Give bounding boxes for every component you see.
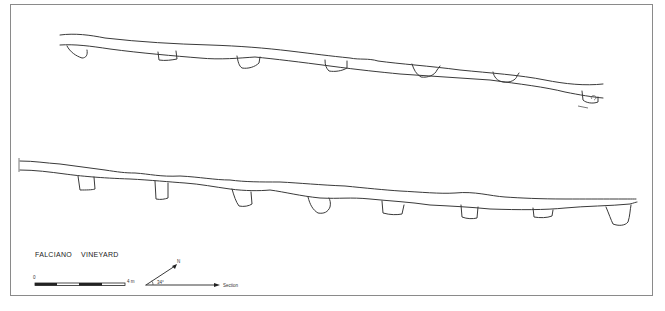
section-drawing [0, 0, 665, 311]
upper-section-profile [60, 34, 603, 108]
scale-end-label: 4 m [127, 279, 135, 284]
scale-bar [35, 283, 125, 286]
section-label: Section [223, 283, 238, 288]
scale-start-label: 0 [33, 275, 36, 280]
angle-label: 34° [157, 280, 164, 285]
drawing-title: FALCIANO VINEYARD [35, 251, 119, 258]
lower-section-profile [19, 158, 637, 225]
north-label: N [177, 259, 180, 264]
